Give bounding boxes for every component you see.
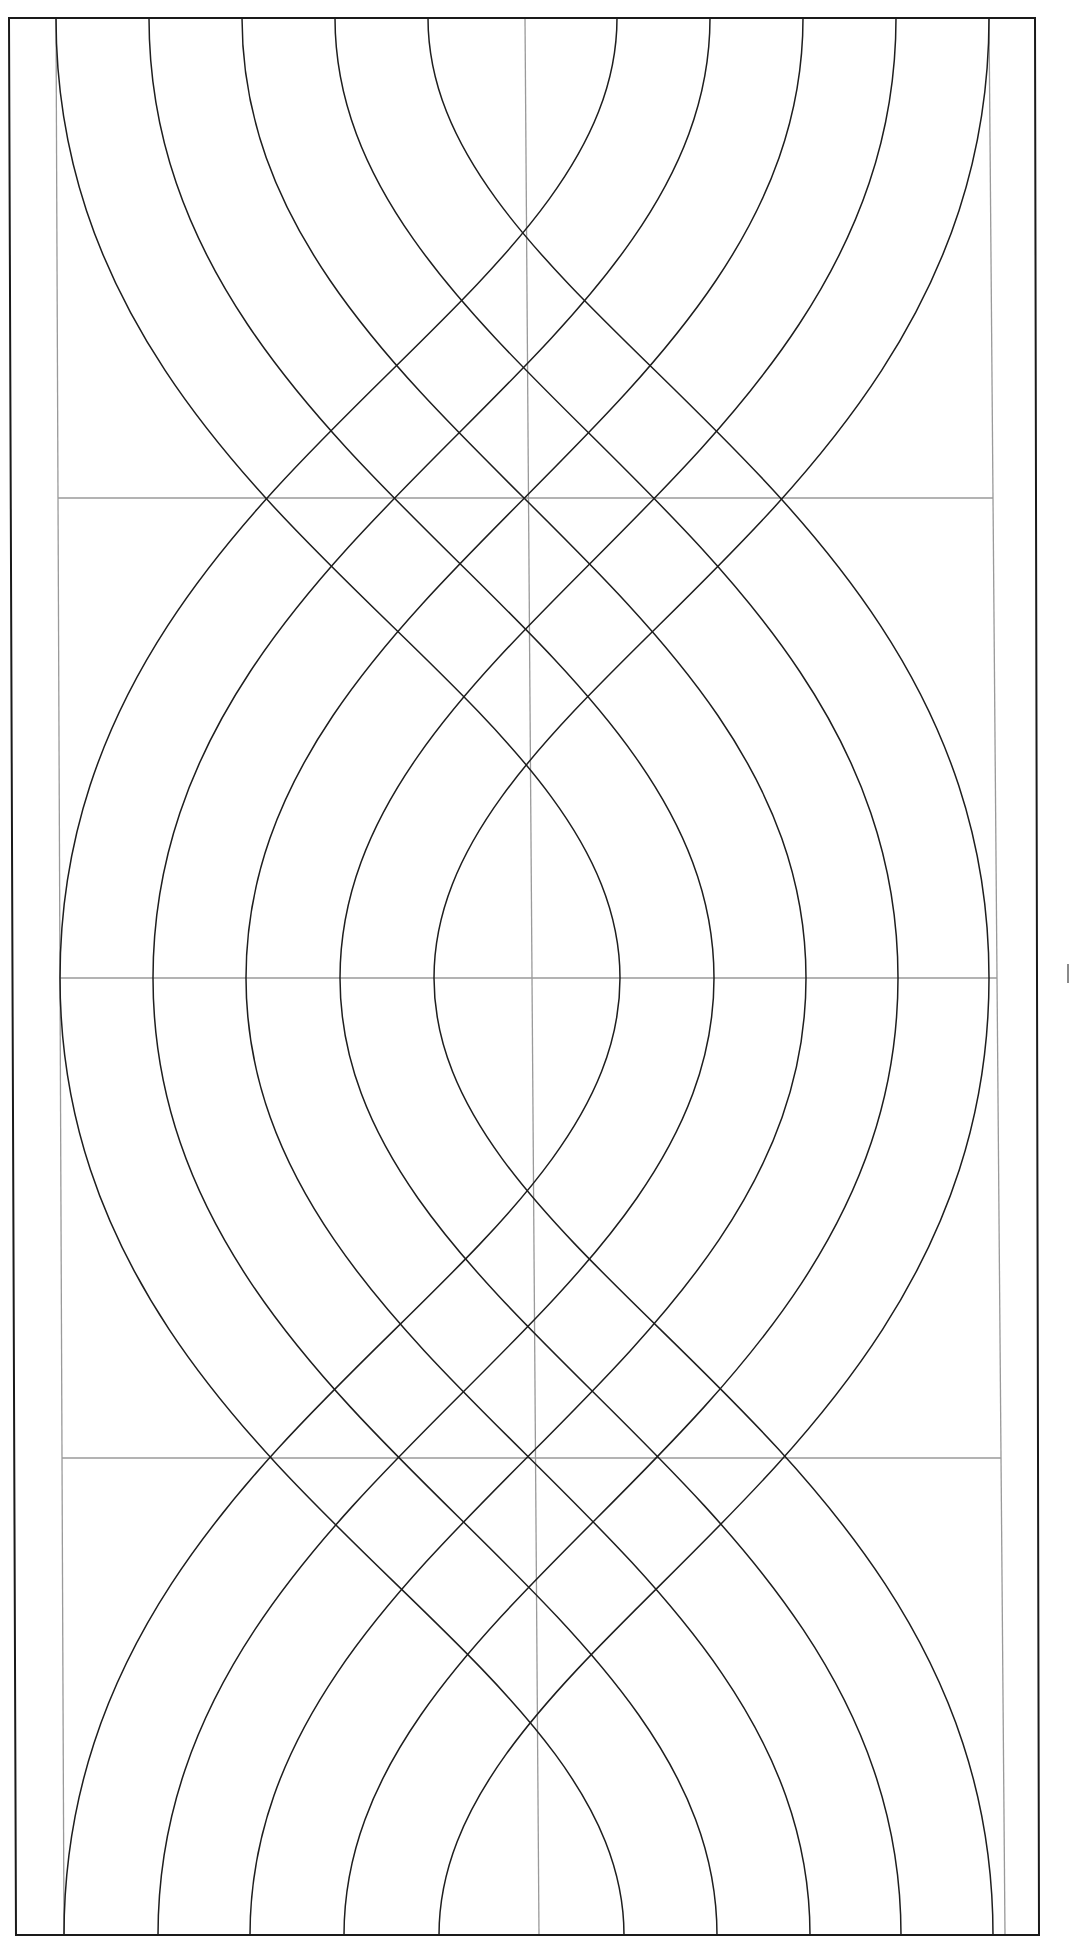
- outer-border-frame: [9, 18, 1039, 1935]
- interlacing-curves: [56, 18, 993, 1935]
- lower-band-curve-right-2: [250, 978, 806, 1935]
- lower-band-curve-right-0: [64, 978, 620, 1935]
- construction-guides: [56, 18, 1005, 1935]
- interlace-diagram: [0, 0, 1070, 1946]
- lower-band-curve-left-4: [60, 978, 624, 1935]
- lower-band-curve-right-3: [344, 978, 898, 1935]
- lower-band-curve-right-4: [439, 978, 989, 1935]
- lower-band-curve-left-1: [340, 978, 901, 1935]
- lower-band-curve-right-1: [158, 978, 714, 1935]
- lower-band-curve-left-0: [434, 978, 993, 1935]
- center-guide: [525, 18, 539, 1935]
- lower-band-curve-left-3: [153, 978, 717, 1935]
- right-guide: [989, 18, 1005, 1935]
